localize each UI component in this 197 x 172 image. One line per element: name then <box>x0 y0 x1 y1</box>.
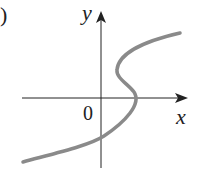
part-label: ) <box>0 2 7 28</box>
y-axis-label: y <box>82 0 92 26</box>
graph-svg <box>0 0 197 172</box>
x-axis-label: x <box>176 104 186 130</box>
origin-label: 0 <box>83 102 93 125</box>
